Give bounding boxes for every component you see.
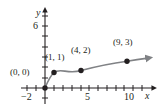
y-tick-label-6: 6 [33, 21, 38, 31]
point-label-9-3: (9, 3) [113, 38, 133, 47]
x-tick-label-10: 10 [124, 92, 134, 102]
data-point-4-2 [78, 68, 83, 73]
x-tick-label-5: 5 [85, 92, 90, 102]
x-tick-label-minus2: −2 [21, 92, 32, 102]
graph-figure: y x 6 −2 5 10 (0, 0) (1, 1) (4, 2) (9, 3… [0, 0, 165, 111]
sqrt-curve [45, 58, 146, 88]
x-axis-label: x [145, 91, 149, 101]
data-point-1-1 [51, 70, 56, 75]
data-point-0-0 [42, 85, 47, 90]
y-axis-label: y [36, 8, 40, 18]
data-point-9-3 [124, 59, 129, 64]
point-label-4-2: (4, 2) [71, 46, 91, 55]
point-label-0-0: (0, 0) [10, 68, 30, 77]
point-label-1-1: (1, 1) [45, 53, 65, 62]
